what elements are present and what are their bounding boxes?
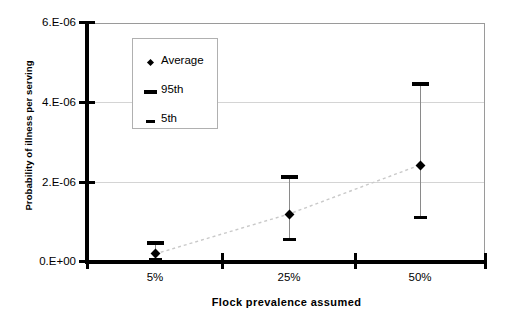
gridline-6e-06	[88, 23, 484, 24]
legend-item-95th: 95th	[141, 82, 183, 96]
x-tick-label-25pct: 25%	[249, 271, 329, 283]
gridline-2e-06	[88, 182, 484, 183]
legend-label-average: Average	[161, 54, 204, 66]
x-axis-title: Flock prevalence assumed	[88, 296, 485, 308]
cap-5th-25pct	[283, 238, 296, 241]
y-tick-label-2e-06: 2.E-06	[14, 176, 76, 188]
x-axis-line	[85, 260, 486, 264]
y-axis-line	[85, 21, 89, 264]
x-tick-label-5pct: 5%	[115, 271, 195, 283]
range-line-50pct	[420, 85, 421, 218]
cap-95th-5pct	[147, 241, 164, 245]
thick-dash-icon	[141, 80, 159, 98]
legend: Average 95th 5th	[132, 38, 218, 129]
y-tick-label-6e-06: 6.E-06	[14, 16, 76, 28]
y-tick-2e-06	[79, 181, 95, 184]
thin-dash-icon	[141, 109, 159, 127]
x-tick-1	[221, 253, 224, 269]
legend-label-5th: 5th	[161, 112, 177, 124]
cap-5th-50pct	[414, 216, 427, 219]
y-tick-6e-06	[79, 21, 95, 24]
y-tick-4e-06	[79, 101, 95, 104]
cap-95th-50pct	[412, 82, 429, 86]
x-tick-label-50pct: 50%	[380, 271, 460, 283]
cap-95th-25pct	[281, 175, 298, 179]
y-tick-label-0: 0.E+00	[14, 255, 76, 267]
diamond-marker-icon	[141, 51, 159, 69]
y-tick-label-4e-06: 4.E-06	[14, 96, 76, 108]
y-tick-label-group: 6.E-06 4.E-06 2.E-06 0.E+00	[12, 0, 76, 326]
error-bar-chart: Probability of illness per serving 6.E-0…	[0, 0, 512, 326]
x-tick-2	[354, 253, 357, 269]
legend-item-average: Average	[141, 53, 204, 67]
x-tick-right	[484, 253, 487, 269]
legend-item-5th: 5th	[141, 111, 177, 125]
x-tick-left	[86, 253, 89, 269]
legend-label-95th: 95th	[161, 83, 183, 95]
